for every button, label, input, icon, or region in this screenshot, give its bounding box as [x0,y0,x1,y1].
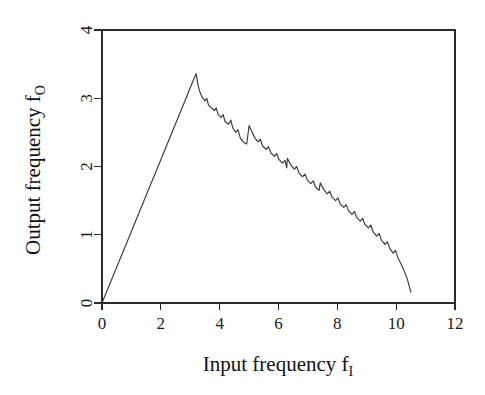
x-axis-ticks [102,303,455,310]
frequency-response-chart: 024681012 01234 Input frequency fI Outpu… [0,0,485,395]
x-axis-title: Input frequency fI [203,352,354,379]
x-tick-label-12: 12 [447,314,464,333]
x-tick-label-10: 10 [388,314,405,333]
frequency-response-curve [102,74,411,303]
x-axis-tick-labels: 024681012 [98,314,464,333]
figure-container: 024681012 01234 Input frequency fI Outpu… [0,0,485,395]
x-tick-label-0: 0 [98,314,107,333]
y-axis-tick-labels: 01234 [77,25,96,307]
y-tick-label-3: 3 [77,94,96,103]
y-tick-label-2: 2 [77,162,96,171]
x-tick-label-8: 8 [333,314,342,333]
axes-frame [102,30,455,303]
y-axis-title: Output frequency fO [21,85,48,255]
y-tick-label-0: 0 [77,299,96,308]
y-tick-label-4: 4 [77,25,96,34]
y-tick-label-1: 1 [77,231,96,240]
x-tick-label-4: 4 [215,314,224,333]
x-tick-label-6: 6 [274,314,283,333]
data-series-group [102,74,411,303]
x-tick-label-2: 2 [157,314,166,333]
